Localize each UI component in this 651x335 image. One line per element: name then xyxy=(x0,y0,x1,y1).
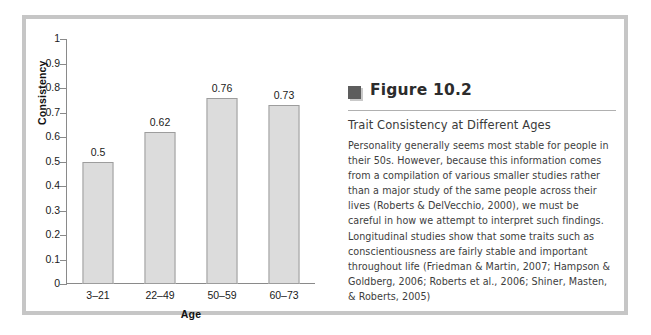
y-axis-tick xyxy=(60,186,67,187)
y-axis-tick-label: 1 xyxy=(32,32,60,45)
plot-area: 00.10.20.30.40.50.60.70.80.91 Consistenc… xyxy=(66,39,316,291)
y-axis-tick xyxy=(60,284,67,285)
y-axis-tick xyxy=(60,260,67,261)
x-axis-tick-label: 60–73 xyxy=(269,289,298,301)
bar-group: 0.7650–59 xyxy=(191,39,253,284)
bar-chart: 00.10.20.30.40.50.60.70.80.91 Consistenc… xyxy=(26,19,324,311)
x-axis-tick-label: 22–49 xyxy=(145,289,174,301)
caption-header: Figure 10.2 xyxy=(348,81,616,109)
book-marker-icon xyxy=(348,86,361,99)
bar-group: 0.53–21 xyxy=(67,39,129,284)
x-axis-tick-label: 50–59 xyxy=(207,289,236,301)
bar xyxy=(83,162,114,285)
caption-subtitle: Trait Consistency at Different Ages xyxy=(348,118,616,132)
bar xyxy=(145,132,176,284)
y-axis-tick xyxy=(60,211,67,212)
bars-layer: 0.53–210.6222–490.7650–590.7360–73 xyxy=(67,39,315,284)
y-axis-tick xyxy=(60,235,67,236)
y-axis-tick-label: 0.6 xyxy=(32,130,60,143)
y-axis-tick-label: 0 xyxy=(32,277,60,290)
figure-caption: Figure 10.2 Trait Consistency at Differe… xyxy=(348,81,616,304)
bar-group: 0.6222–49 xyxy=(129,39,191,284)
y-axis-tick-label: 0.3 xyxy=(32,204,60,217)
figure-number: Figure 10.2 xyxy=(370,81,472,99)
x-axis-title: Age xyxy=(66,308,316,320)
y-axis-tick xyxy=(60,39,67,40)
bar-value-label: 0.76 xyxy=(212,82,232,94)
y-axis-tick-label: 0.5 xyxy=(32,155,60,168)
bar-group: 0.7360–73 xyxy=(253,39,315,284)
y-axis-tick xyxy=(60,162,67,163)
y-axis-tick xyxy=(60,88,67,89)
y-axis-tick-label: 0.2 xyxy=(32,228,60,241)
bar-value-label: 0.62 xyxy=(150,116,170,128)
y-axis-tick xyxy=(60,113,67,114)
y-axis-tick xyxy=(60,64,67,65)
y-axis-title: Consistency xyxy=(36,111,48,125)
y-axis-tick xyxy=(60,137,67,138)
y-axis-tick-label: 0.1 xyxy=(32,253,60,266)
caption-body-text: Personality generally seems most stable … xyxy=(348,138,614,304)
x-axis-tick-label: 3–21 xyxy=(86,289,109,301)
y-axis-tick-label: 0.4 xyxy=(32,179,60,192)
bar-value-label: 0.73 xyxy=(274,89,294,101)
bar xyxy=(269,105,300,284)
caption-divider xyxy=(348,110,616,111)
figure-container: 00.10.20.30.40.50.60.70.80.91 Consistenc… xyxy=(22,15,628,315)
bar xyxy=(207,98,238,284)
bar-value-label: 0.5 xyxy=(91,146,106,158)
